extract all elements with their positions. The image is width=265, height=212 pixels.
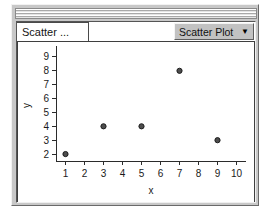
tab-scatter-label: Scatter ... (22, 26, 69, 38)
y-tick-label: 6 (43, 93, 49, 104)
x-tick-label: 6 (158, 168, 164, 179)
chart-type-dropdown[interactable]: Scatter Plot ▼ (174, 23, 254, 40)
chart-type-dropdown-label: Scatter Plot (179, 26, 233, 38)
scatter-plot-window: Scatter ... Scatter Plot ▼ 2345678912345… (11, 4, 259, 206)
data-point (177, 68, 182, 73)
y-axis-title: y (21, 103, 32, 108)
x-tick-label: 8 (196, 168, 202, 179)
data-point (101, 124, 106, 129)
x-tick-label: 2 (82, 168, 88, 179)
x-axis-title: x (149, 185, 154, 196)
window-title-bar[interactable] (15, 8, 257, 19)
y-tick-label: 4 (43, 121, 49, 132)
data-point (63, 151, 68, 156)
x-tick-label: 7 (177, 168, 183, 179)
y-tick-label: 2 (43, 149, 49, 160)
y-tick-label: 9 (43, 51, 49, 62)
data-point (139, 124, 144, 129)
data-point (215, 138, 220, 143)
plot-panel: 2345678912345678910xy (17, 41, 255, 202)
x-tick-label: 9 (215, 168, 221, 179)
window-client-area: Scatter ... Scatter Plot ▼ 2345678912345… (16, 21, 256, 203)
x-tick-label: 4 (120, 168, 126, 179)
scatter-chart: 2345678912345678910xy (18, 42, 254, 201)
x-tick-label: 5 (139, 168, 145, 179)
y-tick-label: 3 (43, 135, 49, 146)
x-tick-label: 3 (101, 168, 107, 179)
chevron-down-icon: ▼ (241, 28, 249, 36)
y-tick-label: 5 (43, 107, 49, 118)
x-tick-label: 1 (63, 168, 69, 179)
x-tick-label: 10 (231, 168, 243, 179)
tab-scatter[interactable]: Scatter ... (17, 22, 89, 42)
y-tick-label: 7 (43, 79, 49, 90)
y-tick-label: 8 (43, 65, 49, 76)
tab-bar: Scatter ... Scatter Plot ▼ (17, 22, 255, 42)
